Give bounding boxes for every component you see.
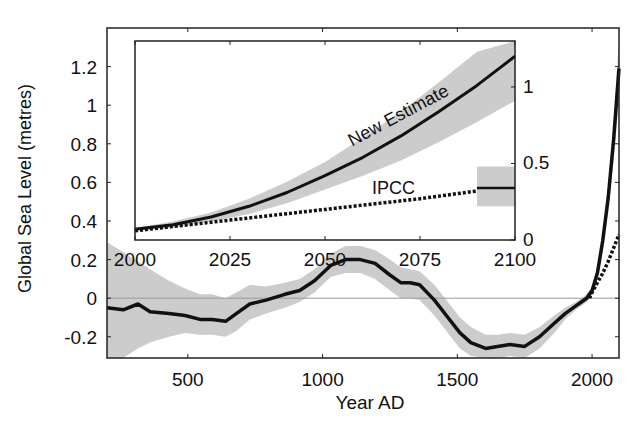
- y-tick-label: 1: [523, 76, 534, 97]
- x-tick-label: 2000: [571, 369, 613, 390]
- ipcc-range-box: [477, 167, 515, 207]
- x-tick-label: 500: [172, 369, 204, 390]
- y-tick-label: 1: [86, 95, 97, 116]
- x-tick-label: 2100: [494, 249, 536, 270]
- x-tick-label: 2000: [114, 249, 156, 270]
- y-tick-label: -0.2: [64, 327, 97, 348]
- inset-y-axis-ticks: 00.51: [511, 76, 549, 250]
- x-tick-label: 2050: [304, 249, 346, 270]
- y-tick-label: 0: [523, 229, 534, 250]
- inset-plot-area: 20002025205020752100 00.51 New Estimate …: [114, 41, 550, 270]
- y-tick-label: 1.2: [71, 57, 97, 78]
- y-tick-label: 0.5: [523, 152, 549, 173]
- y-tick-label: 0.8: [71, 134, 97, 155]
- y-tick-label: 0.2: [71, 250, 97, 271]
- x-tick-label: 1000: [301, 369, 343, 390]
- x-tick-label: 2025: [209, 249, 251, 270]
- y-tick-label: 0.4: [71, 211, 98, 232]
- ipcc-annotation: IPCC: [372, 178, 415, 198]
- x-tick-label: 2075: [399, 249, 441, 270]
- ipcc-dashed-line: [589, 235, 619, 299]
- sea-level-chart: 500100015002000 -0.200.20.40.60.811.2 20…: [0, 0, 642, 435]
- y-tick-label: 0: [86, 288, 97, 309]
- x-axis-title: Year AD: [300, 392, 440, 414]
- y-axis-title: Global Sea Level (metres): [15, 84, 36, 294]
- x-tick-label: 1500: [436, 369, 478, 390]
- y-tick-label: 0.6: [71, 172, 97, 193]
